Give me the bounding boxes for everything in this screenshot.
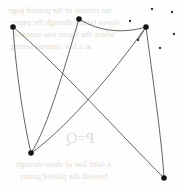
graph-edge	[31, 19, 79, 153]
stray-dot-group	[129, 8, 175, 49]
graph-vertex	[161, 175, 167, 181]
graph-vertex	[28, 150, 34, 156]
graph-vertex	[143, 24, 149, 30]
graph-drawing-layer	[0, 0, 183, 193]
graph-edge	[146, 27, 164, 178]
graph-edge	[79, 19, 146, 31]
graph-canvas	[0, 0, 183, 193]
graph-vertex	[10, 24, 16, 30]
graph-edge	[31, 27, 146, 153]
stray-dot	[137, 39, 139, 41]
stray-dot	[173, 33, 175, 35]
graph-edge-group	[13, 19, 164, 178]
stray-dot	[151, 8, 153, 10]
stray-dot	[171, 11, 173, 13]
graph-vertex	[76, 16, 82, 22]
stray-dot	[129, 20, 131, 22]
graph-edge	[13, 27, 31, 153]
stray-dot	[159, 47, 161, 49]
graph-edge	[13, 27, 164, 178]
scanned-graph-figure: the reverse of the printed pageshows fai…	[0, 0, 183, 193]
